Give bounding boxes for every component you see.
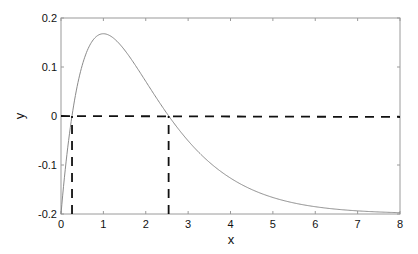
x-axis-label: x (228, 232, 235, 247)
series-zero-line (61, 116, 400, 117)
series-group (61, 34, 400, 214)
x-tick-label: 2 (143, 218, 149, 230)
y-tick-label: -0.1 (38, 159, 57, 171)
line-chart: 012345678-0.2-0.100.10.2 x y (0, 0, 418, 254)
y-tick-label: 0.2 (42, 12, 57, 24)
x-tick-label: 0 (58, 218, 64, 230)
x-tick-label: 7 (355, 218, 361, 230)
x-tick-label: 5 (270, 218, 276, 230)
tick-labels: 012345678-0.2-0.100.10.2 (38, 12, 403, 230)
y-tick-label: 0.1 (42, 61, 57, 73)
x-tick-label: 6 (312, 218, 318, 230)
x-tick-label: 8 (397, 218, 403, 230)
x-tick-label: 4 (227, 218, 233, 230)
series-y-x- (61, 34, 400, 214)
y-tick-label: -0.2 (38, 208, 57, 220)
x-tick-label: 3 (185, 218, 191, 230)
y-tick-label: 0 (51, 110, 57, 122)
x-tick-label: 1 (100, 218, 106, 230)
y-axis-label: y (12, 112, 27, 119)
